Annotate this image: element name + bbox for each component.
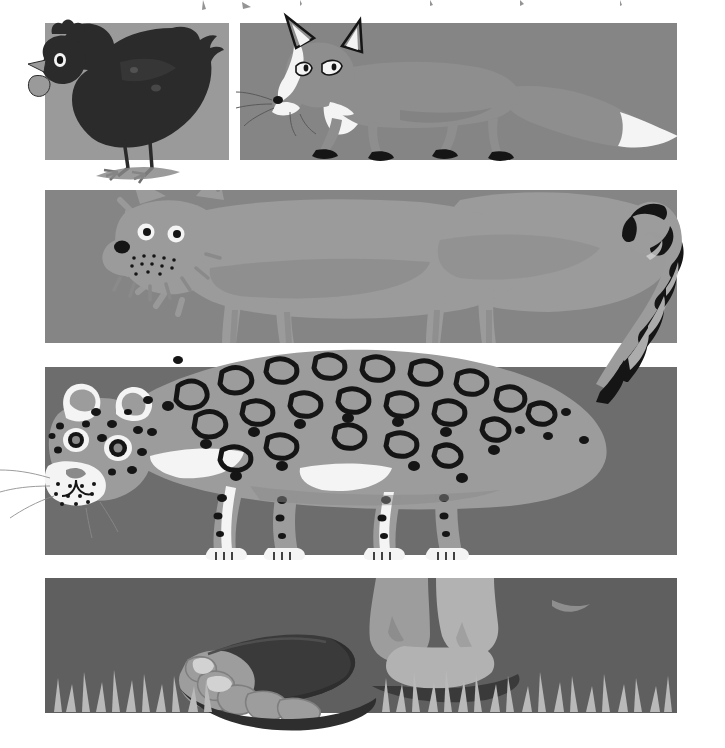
top-edge-ink-traces xyxy=(202,0,622,10)
subject-hen xyxy=(45,23,229,178)
illustration-page: Animal Panels Illustration Black hen pec… xyxy=(0,0,725,748)
subject-dog xyxy=(45,190,677,343)
subject-fox xyxy=(240,23,677,160)
subject-feet xyxy=(45,578,677,738)
subject-leopard xyxy=(45,340,677,565)
